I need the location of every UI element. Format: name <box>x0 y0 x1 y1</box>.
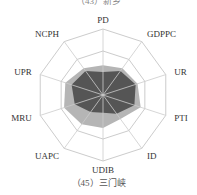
axis-label-uapc: UAPC <box>35 151 59 161</box>
series-dark <box>72 71 136 114</box>
axis-label-mru: MRU <box>11 113 32 123</box>
axis-label-id: ID <box>147 151 157 161</box>
axis-label-pti: PTI <box>174 113 188 123</box>
axis-label-pd: PD <box>97 15 109 25</box>
axis-label-gdppc: GDPPC <box>147 29 176 39</box>
axis-label-upr: UPR <box>14 67 32 77</box>
axis-label-udib: UDIB <box>92 165 114 175</box>
chart-caption: （45）三门峡 <box>0 176 197 189</box>
radar-series <box>64 65 141 128</box>
axis-label-ncph: NCPH <box>35 29 60 39</box>
radar-chart: PDGDPPCURPTIIDUDIBUAPCMRUUPRNCPH <box>0 0 197 195</box>
axis-label-ur: UR <box>174 67 187 77</box>
